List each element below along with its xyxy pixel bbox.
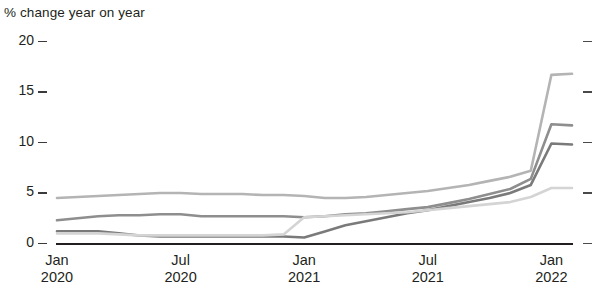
y-axis-tick-label: 5 [0,183,34,199]
x-axis-tick-year: 2022 [511,269,591,286]
y-axis-tick-label: 10 [0,133,34,149]
y-axis-tick-label: 20 [0,32,34,48]
x-axis-tick-year: 2020 [141,269,221,286]
y-axis-tick-mark-right [583,41,592,43]
y-axis-tick-mark [38,142,47,144]
x-axis-tick-month: Jul [141,252,221,269]
chart-container: % change year on year 05101520 Jan2020Ju… [0,0,601,307]
x-axis-tick-month: Jul [388,252,468,269]
x-axis-tick-month: Jan [264,252,344,269]
y-axis-tick-mark-right [583,243,592,245]
x-axis-tick-label: Jan2020 [17,252,97,286]
y-axis-tick-mark [38,192,47,194]
line-series-3 [57,144,572,238]
x-axis-tick-month: Jan [17,252,97,269]
x-axis-tick-month: Jan [511,252,591,269]
y-axis-tick-mark-right [583,192,592,194]
y-axis-tick-mark [38,91,47,93]
x-axis-tick-year: 2021 [264,269,344,286]
x-axis-tick-label: Jan2022 [511,252,591,286]
x-axis-tick-label: Jul2021 [388,252,468,286]
x-axis-tick-year: 2021 [388,269,468,286]
line-series-1 [57,74,572,198]
x-axis-baseline [56,243,573,245]
y-axis-tick-mark-right [583,142,592,144]
x-axis-tick-label: Jul2020 [141,252,221,286]
x-axis-tick-label: Jan2021 [264,252,344,286]
line-series-2 [57,124,572,220]
y-axis-tick-mark-right [583,91,592,93]
y-axis-tick-label: 15 [0,82,34,98]
y-axis-tick-mark [38,243,47,245]
x-axis-tick-year: 2020 [17,269,97,286]
y-axis-tick-mark [38,41,47,43]
y-axis-tick-label: 0 [0,234,34,250]
